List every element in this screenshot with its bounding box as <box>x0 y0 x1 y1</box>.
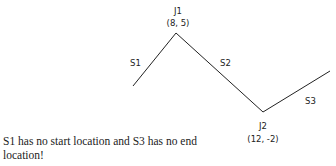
caption-text: S1 has no start location and S3 has no e… <box>3 134 203 162</box>
segment-label-s1: S1 <box>130 58 141 68</box>
joint-label-j2: J2 <box>258 121 267 131</box>
joint-label-j1: J1 <box>173 6 182 16</box>
segment-label-s3: S3 <box>305 96 316 106</box>
joint-coords-j2: (12, -2) <box>247 134 278 144</box>
joint-coords-j1: (8, 5) <box>167 18 190 28</box>
segment-label-s2: S2 <box>220 58 231 68</box>
segment-path <box>133 33 330 112</box>
